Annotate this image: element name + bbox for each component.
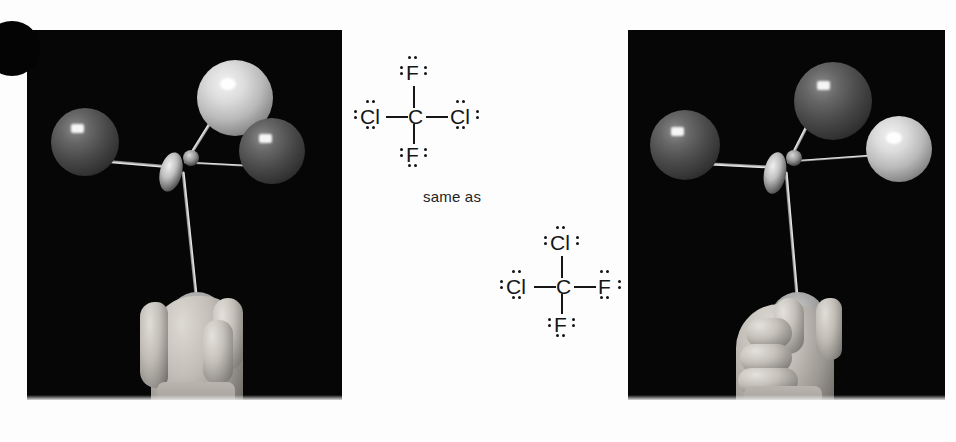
ball-and-stick-model-photo-right <box>628 30 945 400</box>
lone-pair-bottom-of-right-atom <box>600 296 609 299</box>
hub-slab-left <box>155 150 186 194</box>
lone-pair-right-of-right-atom <box>618 280 621 289</box>
lone-pair-bottom-of-right-atom <box>456 126 465 129</box>
bond-right <box>796 154 878 162</box>
lone-pair-right-of-top-atom <box>576 236 579 245</box>
lone-pair-right-of-bottom-atom <box>572 318 575 327</box>
hand-thumb <box>816 298 842 360</box>
lone-pair-top-of-top-atom <box>408 56 417 59</box>
lone-pair-left-of-left-atom <box>354 110 357 119</box>
atom-sphere-chlorine-upper-left <box>650 110 720 180</box>
lone-pair-left-of-top-atom <box>544 236 547 245</box>
hand-finger-middle <box>203 320 233 384</box>
bond-line-left <box>386 116 408 118</box>
photo-floor-right <box>628 395 945 400</box>
lone-pair-top-of-left-atom <box>512 270 521 273</box>
lone-pair-top-of-left-atom <box>366 100 375 103</box>
same-as-label: same as <box>423 188 481 205</box>
carbon-hub <box>786 150 802 166</box>
hand-thumb <box>140 302 168 388</box>
carbon-hub <box>183 150 199 166</box>
lewis-atom-bottom: F <box>406 144 419 165</box>
atom-sphere-chlorine-top <box>794 62 872 140</box>
lone-pair-top-of-right-atom <box>456 100 465 103</box>
bond-line-bottom <box>413 124 415 144</box>
bond-line-right <box>574 286 596 288</box>
lone-pair-left-of-top-atom <box>400 66 403 75</box>
lewis-atom-right: F <box>598 276 611 297</box>
lewis-atom-center: C <box>408 106 423 127</box>
bond-line-right <box>426 116 448 118</box>
bond-line-left <box>534 286 556 288</box>
lone-pair-top-of-right-atom <box>600 270 609 273</box>
atom-sphere-chlorine-upper-right <box>239 118 305 184</box>
lone-pair-bottom-of-left-atom <box>366 126 375 129</box>
lewis-atom-top: F <box>406 62 419 83</box>
lewis-atom-center: C <box>556 276 571 297</box>
bond-bottom <box>785 171 800 309</box>
lone-pair-right-of-right-atom <box>476 110 479 119</box>
lewis-structure-top: F Cl C Cl <box>352 56 484 168</box>
lone-pair-right-of-bottom-atom <box>424 148 427 157</box>
lone-pair-right-of-top-atom <box>424 66 427 75</box>
lewis-atom-right: Cl <box>450 106 470 127</box>
bond-line-bottom <box>561 294 563 314</box>
photo-floor-left <box>27 395 342 400</box>
lone-pair-bottom-of-left-atom <box>512 296 521 299</box>
bond-bottom <box>182 171 200 311</box>
lone-pair-left-of-bottom-atom <box>548 318 551 327</box>
figure-page: F Cl C Cl <box>0 0 956 442</box>
lone-pair-left-of-left-atom <box>500 280 503 289</box>
lewis-atom-top: Cl <box>550 232 570 253</box>
ball-and-stick-model-photo-left <box>27 30 342 400</box>
lewis-structure-bottom: Cl Cl C F F <box>498 226 630 338</box>
lone-pair-bottom-of-bottom-atom <box>556 334 565 337</box>
lewis-atom-bottom: F <box>554 314 567 335</box>
lewis-atom-left: Cl <box>506 276 526 297</box>
atom-sphere-chlorine-upper-left <box>51 108 119 176</box>
lone-pair-top-of-top-atom <box>556 226 565 229</box>
lone-pair-left-of-bottom-atom <box>400 148 403 157</box>
lewis-atom-left: Cl <box>360 106 380 127</box>
atom-sphere-fluorine-upper-right <box>866 116 932 182</box>
lone-pair-bottom-of-bottom-atom <box>408 164 417 167</box>
